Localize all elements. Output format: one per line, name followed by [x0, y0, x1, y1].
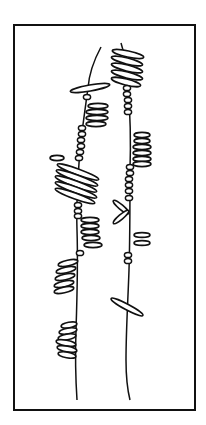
oval-band [133, 161, 151, 166]
bead [123, 85, 130, 90]
bead [124, 252, 131, 257]
right-small-pair [134, 233, 150, 246]
bead [74, 202, 81, 207]
oval-band [134, 241, 150, 246]
bead [125, 195, 132, 200]
oval-band [84, 242, 102, 247]
oval-band [86, 115, 108, 120]
left-lower-cluster [54, 258, 79, 295]
bead [75, 155, 82, 160]
left-upper-bead [83, 94, 90, 99]
bead [77, 137, 84, 142]
bead [125, 176, 132, 181]
left-single-bead [76, 250, 83, 255]
bead [125, 182, 132, 187]
bead [76, 250, 83, 255]
left-dense-cluster [54, 162, 99, 206]
bead [124, 258, 131, 263]
oval-band [50, 155, 64, 160]
left-upper-cluster [86, 103, 108, 126]
right-v-pair [112, 199, 130, 226]
left-mid-cluster [81, 217, 102, 247]
oval-band [86, 109, 108, 114]
oval-band [81, 217, 99, 222]
oval-band [133, 144, 151, 149]
oval-clusters-group [50, 48, 151, 360]
bead [124, 97, 131, 102]
oval-band [81, 223, 99, 228]
right-top-cluster [111, 48, 145, 89]
right-upper-beads [123, 85, 131, 114]
bead [123, 91, 130, 96]
oval-band [134, 233, 150, 238]
bead [76, 149, 83, 154]
right-middle-cluster [133, 132, 151, 166]
bead [77, 143, 84, 148]
left-isolated-oval [50, 155, 64, 160]
bead [125, 188, 132, 193]
bead [126, 164, 133, 169]
bead [124, 103, 131, 108]
oval-band [88, 103, 108, 108]
right-lower-beads [124, 252, 131, 263]
oval-band [134, 138, 150, 143]
oval-band [133, 150, 151, 155]
right-middle-beads [125, 164, 133, 200]
left-bottom-cluster [56, 321, 78, 359]
bead [83, 94, 90, 99]
bead [126, 170, 133, 175]
left-crossbar [70, 82, 110, 95]
oval-band [82, 235, 100, 240]
bead [124, 109, 131, 114]
oval-band [81, 229, 99, 234]
bead [78, 125, 85, 130]
oval-band [86, 121, 106, 126]
left-middle-beads [75, 125, 85, 160]
stem-diagram [0, 0, 206, 425]
oval-band [134, 132, 150, 137]
left-lower-beads [74, 202, 81, 218]
bead [78, 131, 85, 136]
bead [74, 213, 81, 218]
oval-band [112, 209, 130, 226]
oval-band [70, 82, 110, 95]
